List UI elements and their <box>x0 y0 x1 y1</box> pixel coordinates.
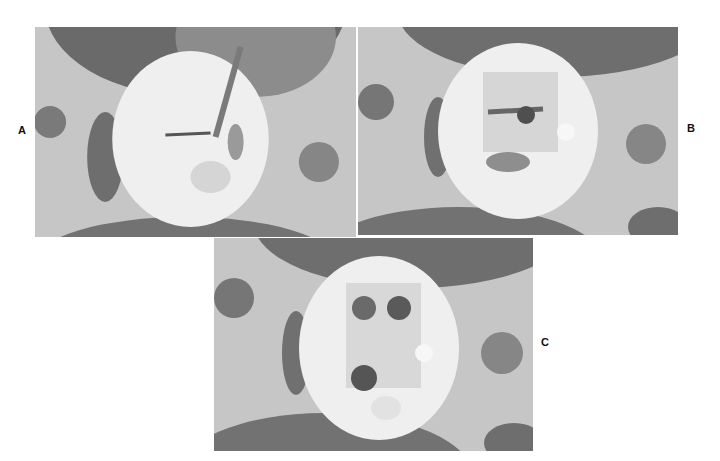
panel-label-c: C <box>541 336 549 348</box>
photo-panel-b <box>358 27 678 235</box>
photo-b-image <box>358 27 678 235</box>
photo-panel-c <box>214 238 533 451</box>
photo-a-image <box>35 27 356 237</box>
panel-label-a: A <box>18 124 26 136</box>
photo-c-image <box>214 238 533 451</box>
panel-label-b: B <box>687 122 695 134</box>
photo-panel-a <box>35 27 356 237</box>
